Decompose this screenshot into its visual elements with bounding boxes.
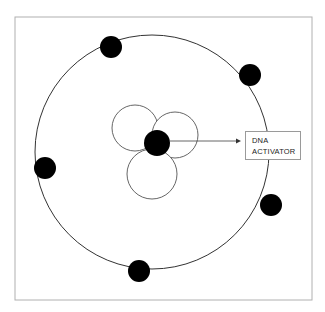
label-line-2: ACTIVATOR: [252, 146, 300, 157]
electron-dot: [100, 36, 122, 58]
center-dot: [144, 130, 170, 156]
electron-dot: [34, 157, 56, 179]
electron-dot: [128, 260, 150, 282]
electron-dot: [239, 64, 261, 86]
dna-activator-label: DNA ACTIVATOR: [245, 131, 301, 160]
electron-dot: [260, 194, 282, 216]
label-line-1: DNA: [252, 135, 300, 146]
arrow-head-icon: [236, 139, 241, 144]
nucleus-lobe-bottom: [127, 149, 177, 199]
